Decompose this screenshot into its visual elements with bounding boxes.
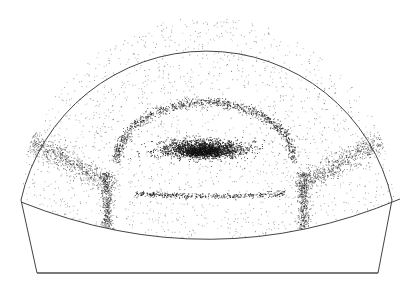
density-figure xyxy=(0,0,409,293)
dot-density-layer xyxy=(23,19,394,238)
horizon-chord xyxy=(21,199,400,239)
projection-plot xyxy=(0,0,409,293)
